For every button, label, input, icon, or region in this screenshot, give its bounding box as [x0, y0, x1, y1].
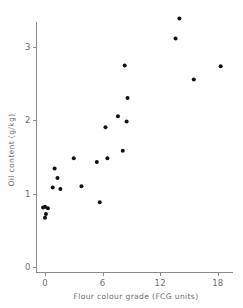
data-point — [44, 212, 48, 216]
y-tick-label: 0 — [25, 262, 31, 272]
y-axis-ticks: 0123 — [25, 42, 37, 273]
data-point — [43, 216, 47, 220]
data-point — [105, 156, 109, 160]
data-points — [41, 17, 223, 220]
data-point — [174, 36, 178, 40]
y-tick-label: 2 — [25, 115, 31, 125]
scatter-chart-figure: 0123 061218 Flour colour grade (FCG unit… — [0, 0, 243, 308]
data-point — [103, 125, 107, 129]
y-axis-title: Oil content (g/kg) — [7, 114, 16, 187]
x-tick-label: 18 — [212, 278, 223, 288]
x-tick-label: 12 — [155, 278, 166, 288]
plot-area: 0123 061218 Flour colour grade (FCG unit… — [0, 0, 243, 308]
data-point — [46, 206, 50, 210]
data-point — [95, 160, 99, 164]
data-point — [123, 64, 127, 68]
data-point — [192, 78, 196, 82]
data-point — [121, 149, 125, 153]
data-point — [177, 17, 181, 21]
data-point — [98, 200, 102, 204]
data-point — [72, 156, 76, 160]
data-point — [58, 187, 62, 191]
data-point — [116, 114, 120, 118]
data-point — [126, 96, 130, 100]
data-point — [219, 64, 223, 68]
x-tick-label: 6 — [100, 278, 106, 288]
x-axis-title: Flour colour grade (FCG units) — [74, 292, 199, 301]
x-axis-ticks: 061218 — [42, 273, 223, 288]
data-point — [55, 176, 59, 180]
data-point — [125, 119, 129, 123]
x-tick-label: 0 — [42, 278, 48, 288]
data-point — [53, 167, 57, 171]
data-point — [79, 184, 83, 188]
axes — [37, 22, 234, 273]
y-tick-label: 3 — [25, 42, 31, 52]
data-point — [51, 186, 55, 190]
y-tick-label: 1 — [25, 189, 31, 199]
